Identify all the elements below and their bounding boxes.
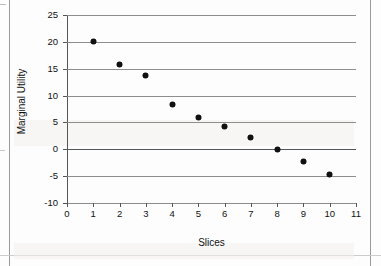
x-tick-label-6: 6 — [215, 209, 235, 219]
x-axis-title: Slices — [67, 237, 356, 248]
gridline-y-0 — [67, 149, 356, 150]
x-tick-label-2: 2 — [110, 209, 130, 219]
x-tick-label-8: 8 — [267, 209, 287, 219]
data-point — [91, 39, 96, 44]
data-point — [143, 73, 148, 78]
data-point — [301, 159, 306, 164]
x-tick-3 — [146, 203, 147, 207]
gridline-y-5 — [67, 122, 356, 123]
x-tick-label-5: 5 — [188, 209, 208, 219]
y-axis-title: Marginal Utility — [16, 42, 27, 162]
x-tick-2 — [120, 203, 121, 207]
gridline-y-25 — [67, 15, 356, 16]
x-tick-8 — [277, 203, 278, 207]
x-tick-label-11: 11 — [346, 209, 366, 219]
gridline-y-20 — [67, 42, 356, 43]
x-tick-7 — [251, 203, 252, 207]
x-tick-1 — [93, 203, 94, 207]
x-tick-label-0: 0 — [57, 209, 77, 219]
data-point — [117, 62, 122, 67]
x-tick-label-3: 3 — [136, 209, 156, 219]
x-tick-label-1: 1 — [83, 209, 103, 219]
x-tick-10 — [330, 203, 331, 207]
x-tick-0 — [67, 203, 68, 207]
data-point — [275, 147, 280, 152]
data-point — [248, 135, 253, 140]
data-point — [170, 102, 175, 107]
y-tick-label--10: -10 — [20, 198, 58, 208]
data-point — [222, 124, 227, 129]
x-tick-4 — [172, 203, 173, 207]
x-axis: 01234567891011 — [67, 203, 356, 225]
plot-area — [67, 15, 356, 203]
marginal-utility-scatter-chart: 2520151050-5-10 01234567891011 Slices Ma… — [0, 0, 381, 266]
y-tick-label--5: -5 — [20, 171, 58, 181]
gridline-y--5 — [67, 176, 356, 177]
gridline-y-10 — [67, 96, 356, 97]
x-tick-label-4: 4 — [162, 209, 182, 219]
x-tick-9 — [303, 203, 304, 207]
x-tick-label-10: 10 — [320, 209, 340, 219]
x-tick-5 — [198, 203, 199, 207]
x-tick-label-7: 7 — [241, 209, 261, 219]
x-tick-11 — [356, 203, 357, 207]
y-tick-label-25: 25 — [20, 10, 58, 20]
x-tick-6 — [225, 203, 226, 207]
gridline-y-15 — [67, 69, 356, 70]
x-tick-label-9: 9 — [293, 209, 313, 219]
data-point — [196, 115, 201, 120]
